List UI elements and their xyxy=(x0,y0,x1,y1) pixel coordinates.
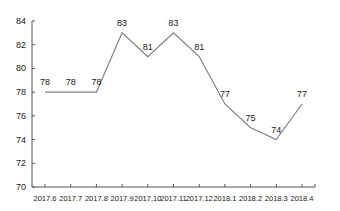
x-tick-label: 2018.3 xyxy=(265,194,288,203)
data-label: 83 xyxy=(117,18,127,28)
data-label: 75 xyxy=(246,113,256,123)
y-tick-label: 78 xyxy=(16,87,26,97)
data-label: 81 xyxy=(143,42,153,52)
data-label: 83 xyxy=(168,18,178,28)
series-line xyxy=(45,33,302,140)
y-tick-label: 84 xyxy=(16,16,26,26)
x-tick-label: 2017.10 xyxy=(134,194,161,203)
x-tick-label: 2017.9 xyxy=(111,194,134,203)
y-tick-label: 70 xyxy=(16,182,26,192)
y-tick-label: 76 xyxy=(16,111,26,121)
x-tick-label: 2017.11 xyxy=(160,194,187,203)
data-label: 78 xyxy=(40,77,50,87)
data-label: 81 xyxy=(194,42,204,52)
x-tick-label: 2018.4 xyxy=(291,194,314,203)
data-label: 77 xyxy=(220,89,230,99)
data-label: 78 xyxy=(66,77,76,87)
axes: 70727476788082842017.62017.72017.82017.9… xyxy=(16,16,315,203)
line-chart: 70727476788082842017.62017.72017.82017.9… xyxy=(0,0,340,211)
data-label: 74 xyxy=(271,125,281,135)
data-label: 78 xyxy=(91,77,101,87)
data-labels: 7878788381838177757477 xyxy=(40,18,307,135)
x-tick-label: 2017.12 xyxy=(186,194,213,203)
data-series xyxy=(45,33,302,140)
y-tick-label: 72 xyxy=(16,158,26,168)
x-tick-label: 2018.2 xyxy=(239,194,262,203)
y-tick-label: 82 xyxy=(16,40,26,50)
data-label: 77 xyxy=(297,89,307,99)
x-tick-label: 2018.1 xyxy=(213,194,236,203)
x-tick-label: 2017.8 xyxy=(85,194,108,203)
y-tick-label: 80 xyxy=(16,63,26,73)
x-tick-label: 2017.6 xyxy=(34,194,57,203)
x-tick-label: 2017.7 xyxy=(59,194,82,203)
y-tick-label: 74 xyxy=(16,135,26,145)
